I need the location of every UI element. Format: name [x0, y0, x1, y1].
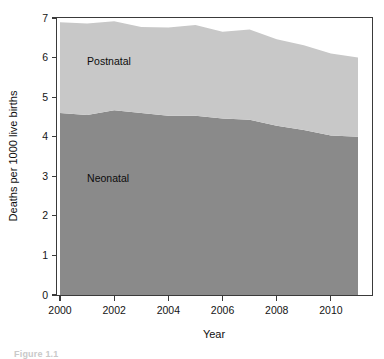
x-axis-title: Year [203, 328, 226, 340]
x-tick-label: 2008 [265, 304, 289, 316]
y-tick-label: 6 [42, 51, 48, 63]
y-tick-label: 7 [42, 12, 48, 24]
series-label-postnatal: Postnatal [87, 55, 131, 67]
y-tick-label: 4 [42, 130, 48, 142]
y-tick-label: 1 [42, 249, 48, 261]
series-label-neonatal: Neonatal [87, 172, 129, 184]
x-tick-label: 2006 [211, 304, 235, 316]
x-tick-label: 2002 [103, 304, 127, 316]
y-tick-label: 2 [42, 209, 48, 221]
x-tick-label: 2004 [157, 304, 181, 316]
y-tick-label: 5 [42, 91, 48, 103]
y-tick-label: 0 [42, 289, 48, 301]
y-tick-label: 3 [42, 170, 48, 182]
area-series-neonatal [60, 110, 358, 295]
x-tick-label: 2000 [48, 304, 72, 316]
x-tick-label: 2010 [319, 304, 343, 316]
figure-caption: Figure 1.1 [14, 349, 59, 359]
y-axis-title: Deaths per 1000 live births [7, 90, 19, 221]
